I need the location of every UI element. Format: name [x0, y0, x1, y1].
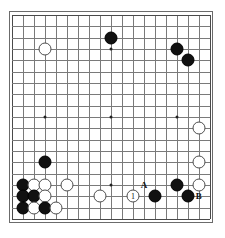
stone-black[interactable] [181, 54, 194, 67]
star-point [110, 48, 113, 51]
go-board[interactable]: 1 AB [9, 11, 213, 223]
grid-line-horizontal [12, 128, 210, 129]
point-label-b: B [196, 192, 202, 201]
grid-line-horizontal [12, 106, 210, 107]
stone-black[interactable] [170, 179, 183, 192]
grid-line-horizontal [12, 94, 210, 95]
grid-line-horizontal [12, 15, 210, 16]
grid-line-horizontal [12, 83, 210, 84]
stone-black[interactable] [181, 190, 194, 203]
stone-black[interactable] [39, 156, 52, 169]
grid-line-horizontal [12, 151, 210, 152]
grid-line-horizontal [12, 140, 210, 141]
star-point [44, 116, 47, 119]
go-diagram-canvas: 1 AB [0, 0, 225, 238]
grid-line-vertical [210, 15, 211, 219]
stone-white[interactable] [192, 122, 205, 135]
star-point [110, 116, 113, 119]
stone-black[interactable] [105, 31, 118, 44]
move-number: 1 [131, 192, 135, 200]
star-point [110, 184, 113, 187]
star-point [175, 116, 178, 119]
point-label-a: A [141, 181, 148, 190]
grid-line-horizontal [12, 60, 210, 61]
stone-white[interactable] [39, 43, 52, 56]
stone-black[interactable] [170, 43, 183, 56]
stone-black[interactable] [148, 190, 161, 203]
grid-line-horizontal [12, 26, 210, 27]
stone-white[interactable] [94, 190, 107, 203]
stone-white[interactable] [192, 156, 205, 169]
stone-white[interactable] [50, 201, 63, 214]
stone-white[interactable] [61, 179, 74, 192]
grid-line-horizontal [12, 174, 210, 175]
grid-line-horizontal [12, 72, 210, 73]
stone-white-numbered[interactable]: 1 [126, 190, 139, 203]
stone-white[interactable] [192, 179, 205, 192]
grid-line-horizontal [12, 219, 210, 220]
